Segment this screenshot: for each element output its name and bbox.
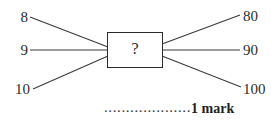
mapping-diagram-figure: 8 9 10 ? 80 90 100 .................... … — [0, 0, 271, 123]
output-label-80: 80 — [243, 9, 271, 24]
connector-line-8-to-box — [30, 17, 108, 47]
input-label-9: 9 — [6, 43, 28, 58]
connector-line-10-to-box — [33, 56, 108, 89]
connector-line-box-to-100 — [162, 56, 241, 87]
unknown-rule-box: ? — [107, 32, 163, 68]
output-label-100: 100 — [243, 82, 271, 97]
output-label-90: 90 — [243, 43, 271, 58]
connector-line-box-to-80 — [162, 15, 240, 44]
leader-dots: .................... — [104, 99, 191, 116]
marks-leader-row: .................... 1 mark — [104, 100, 264, 118]
input-label-8: 8 — [6, 10, 28, 25]
question-mark-label: ? — [131, 41, 138, 57]
input-label-10: 10 — [0, 82, 30, 97]
marks-label: 1 mark — [191, 101, 234, 117]
